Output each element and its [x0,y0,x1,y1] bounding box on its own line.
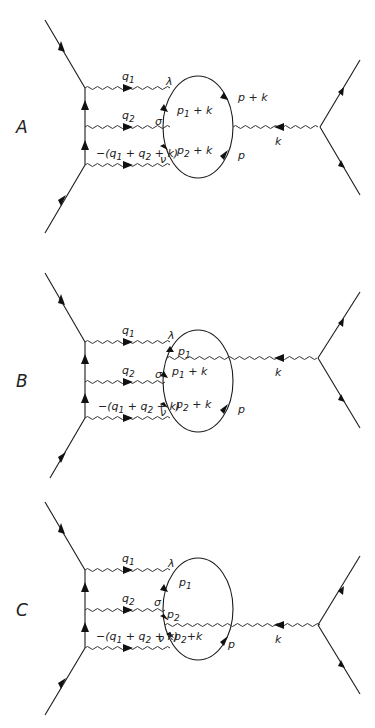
fermion-line-lower-left [50,418,85,478]
label-q2: q2 [122,109,135,124]
arrow-icon [123,123,133,131]
arrow-icon [338,660,345,668]
loop-label-p: p [227,638,235,651]
label-q1: q1 [122,552,135,567]
arrow-icon [123,378,133,386]
panel-label: C [16,600,28,620]
fermion-loop [163,330,233,432]
fermion-line-upper-left [45,20,85,88]
loop-label-p: p [237,403,245,416]
arrow-icon [123,566,133,574]
loop-label-p2: p2 [166,608,180,623]
arrow-icon [274,354,284,362]
fermion-line-lower-right [318,358,360,428]
fermion-line-upper-left [45,273,85,342]
loop-label-p1k: p1 + k [176,104,213,119]
label-k: k [275,633,282,646]
fermion-line-upper-left [45,502,85,570]
arrow-icon [81,140,89,150]
label-q2: q2 [122,592,135,607]
vertex-sigma: σ [154,596,162,609]
loop-label-pk: p + k [237,91,268,104]
arrow-icon [123,644,133,652]
loop-label-p1: p1 [178,576,192,591]
fermion-line-lower-right [318,625,360,694]
arrow-icon [123,414,133,422]
label-q2: q2 [122,364,135,379]
arrow-icon [220,636,228,646]
loop-label-p1k: p1 + k [171,365,208,380]
label-q1: q1 [122,324,135,339]
label-k: k [275,135,282,148]
loop-label-p2k: p2 + k [175,398,212,413]
arrow-icon [81,582,89,592]
vertex-nu: ν [160,406,166,419]
arrow-icon [58,294,65,305]
loop-label-p2k: p2 + k [176,144,213,159]
loop-label-p2k: p2+k [173,630,203,645]
arrow-icon [81,622,89,632]
panel-label: B [16,371,28,391]
vertex-lambda: λ [167,329,175,342]
arrow-icon [338,394,345,402]
loop-label-p: p [237,149,245,162]
vertex-lambda: λ [167,557,175,570]
panel-label: A [15,117,28,137]
photon-k [165,624,320,627]
arrow-icon [123,84,133,92]
loop-label-p1: p1 [177,345,191,360]
vertex-nu: ν [158,632,164,645]
vertex-sigma: σ [155,368,163,381]
fermion-loop [163,76,233,178]
arrow-icon [81,393,89,403]
label-q1: q1 [122,70,135,85]
label-neg-sum: −(q1 + q2 + k) [98,400,180,415]
label-neg-sum: −(q1 + q2 + k) [96,630,178,645]
arrow-icon [123,606,133,614]
panel-c: C q1 q2 −(q1 + q2 + k) λ σ ν p1 p2 p2+k … [16,502,360,715]
arrow-icon [338,160,345,168]
vertex-sigma: σ [155,115,163,128]
fermion-line-lower-right [320,127,360,195]
arrow-icon [58,41,65,52]
arrow-icon [58,523,65,534]
vertex-lambda: λ [165,75,173,88]
feynman-diagrams: A q1 q2 −(q1 + q2 + k) λ σ ν p1 + k p2 +… [0,0,375,728]
arrow-icon [274,123,284,131]
arrow-icon [220,92,228,100]
arrow-icon [166,346,174,352]
fermion-line-lower-left [45,165,85,233]
fermion-line-upper-right [318,292,360,358]
fermion-line-lower-left [45,648,85,715]
panel-b: B q1 q2 −(q1 + q2 + k) λ σ ν p1 p1 + k p… [16,273,360,478]
arrow-icon [123,161,133,169]
arrow-icon [274,621,284,629]
vertex-nu: ν [160,153,166,166]
arrow-icon [81,100,89,110]
label-k: k [275,366,282,379]
arrow-icon [123,338,133,346]
panel-a: A q1 q2 −(q1 + q2 + k) λ σ ν p1 + k p2 +… [15,20,360,233]
arrow-icon [81,354,89,364]
